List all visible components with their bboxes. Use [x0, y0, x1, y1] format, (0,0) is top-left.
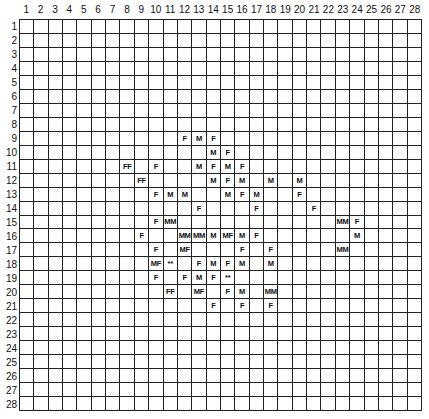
grid-cell: [336, 20, 350, 34]
grid-cell: [192, 327, 206, 341]
grid-cell: [135, 160, 149, 174]
grid-cell: [321, 383, 335, 397]
grid-cell: [106, 341, 120, 355]
grid-cell: [221, 48, 235, 62]
grid-cell: [264, 160, 278, 174]
grid-cell: [77, 271, 91, 285]
grid-cell: [379, 243, 393, 257]
grid-cell: [92, 257, 106, 271]
grid-cell: [264, 118, 278, 132]
grid-cell: [34, 383, 48, 397]
grid-cell: [120, 104, 134, 118]
column-label: 24: [350, 3, 364, 17]
grid-cell: [207, 397, 221, 411]
grid-cell: [20, 48, 34, 62]
grid-cell: [207, 90, 221, 104]
grid-cell: [178, 355, 192, 369]
grid-cell: [350, 299, 364, 313]
grid-cell: [408, 285, 422, 299]
grid-cell: M: [264, 257, 278, 271]
grid-cell: [63, 34, 77, 48]
grid-cell: [408, 20, 422, 34]
grid-cell: [393, 341, 407, 355]
grid-cell: [20, 341, 34, 355]
grid-cell: [250, 383, 264, 397]
grid-cell: [207, 383, 221, 397]
row-label: 5: [0, 75, 19, 89]
grid-cell: M: [293, 174, 307, 188]
grid-cell: [264, 383, 278, 397]
grid-cell: [379, 160, 393, 174]
grid-cell: [393, 34, 407, 48]
grid-cell: [207, 202, 221, 216]
grid-cell: [178, 62, 192, 76]
grid-cell: [278, 174, 292, 188]
grid-cell: [393, 90, 407, 104]
grid-cell: [63, 48, 77, 62]
grid-cell: [135, 216, 149, 230]
grid-cell: [92, 202, 106, 216]
grid-cell: [120, 20, 134, 34]
grid-cell: [365, 341, 379, 355]
grid-cell: [393, 285, 407, 299]
grid-cell: [34, 118, 48, 132]
grid-cell: [350, 34, 364, 48]
grid-cell: [307, 327, 321, 341]
grid-cell: [92, 229, 106, 243]
grid-cell: FF: [135, 174, 149, 188]
grid-cell: [336, 104, 350, 118]
grid-cell: [34, 257, 48, 271]
grid-cell: [321, 257, 335, 271]
grid-cell: [164, 20, 178, 34]
grid-cell: [149, 383, 163, 397]
grid-cell: [235, 90, 249, 104]
grid-cell: [293, 104, 307, 118]
grid-cell: [336, 285, 350, 299]
grid-cell: [365, 104, 379, 118]
row-label: 16: [0, 229, 19, 243]
grid-cell: [350, 355, 364, 369]
grid-cell: M: [207, 257, 221, 271]
grid-cell: [207, 216, 221, 230]
column-labels: 1234567891011121314151617181920212223242…: [19, 3, 422, 17]
grid-cell: [365, 327, 379, 341]
row-label: 17: [0, 243, 19, 257]
grid-cell: [365, 146, 379, 160]
grid-cell: [164, 202, 178, 216]
grid-cell: [135, 188, 149, 202]
grid-cell: [207, 20, 221, 34]
grid-cell: [135, 90, 149, 104]
grid-cell: [350, 397, 364, 411]
grid-cell: [336, 383, 350, 397]
grid-cell: [20, 90, 34, 104]
grid-cell: [365, 257, 379, 271]
grid-cell: [34, 188, 48, 202]
grid-cell: [92, 369, 106, 383]
grid-cell: [307, 34, 321, 48]
grid-cell: [34, 132, 48, 146]
grid-cell: [221, 355, 235, 369]
grid-cell: [63, 327, 77, 341]
grid-cell: [149, 299, 163, 313]
grid-cell: [63, 285, 77, 299]
grid-cell: [278, 355, 292, 369]
grid-cell: MM: [336, 243, 350, 257]
grid-cell: [63, 62, 77, 76]
grid-cell: [235, 216, 249, 230]
grid-cell: [20, 202, 34, 216]
grid-cell: [350, 313, 364, 327]
grid-cell: [178, 299, 192, 313]
grid-cell: [278, 132, 292, 146]
grid-cell: [393, 243, 407, 257]
grid-cell: [106, 299, 120, 313]
grid-cell: [365, 62, 379, 76]
grid-cell: [120, 132, 134, 146]
grid-cell: [393, 355, 407, 369]
grid-cell: [250, 174, 264, 188]
grid-cell: [221, 132, 235, 146]
grid-cell: [408, 48, 422, 62]
grid: FMFMFFFFMFMFFFMFMMMFMMMFMFFFFFMMMMFFMMMM…: [19, 19, 422, 411]
grid-cell: [264, 341, 278, 355]
grid-cell: [264, 48, 278, 62]
grid-cell: [221, 243, 235, 257]
